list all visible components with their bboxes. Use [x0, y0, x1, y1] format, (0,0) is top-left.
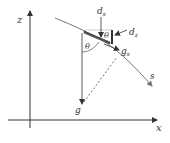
s-curve-label: s	[150, 71, 155, 81]
projection-dashed-line	[84, 57, 117, 102]
d-s-label: ds	[97, 6, 106, 17]
diagram-canvas: z x s ds dz θ g θ gs	[0, 0, 170, 143]
theta-top-label: θ	[104, 31, 109, 40]
z-axis-label: z	[16, 14, 23, 25]
g-label: g	[75, 105, 81, 115]
theta-left-label: θ	[85, 42, 90, 51]
d-z-label: dz	[129, 27, 139, 38]
d-z-arrow	[115, 30, 127, 35]
g-s-arrow	[104, 44, 119, 50]
g-s-label: gs	[121, 46, 130, 57]
x-axis-label: x	[156, 122, 162, 133]
